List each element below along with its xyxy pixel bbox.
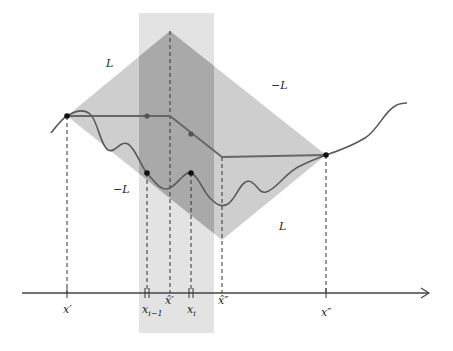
slope-label-lower-left: −L: [113, 183, 130, 196]
left-vertex-point: [64, 113, 70, 119]
diagram-canvas: L −L −L L x′ xi−1 x̂′ xi x̂″ x″: [0, 0, 453, 351]
axis-label-x-prime: x′: [63, 303, 72, 316]
axis-label-x-double-prime: x″: [321, 306, 332, 319]
curve-point-x-i: [188, 170, 194, 176]
slope-label-lower-right: L: [278, 220, 286, 233]
upper-point-x-i-minus-1: [144, 113, 149, 118]
upper-point-x-i: [188, 131, 193, 136]
axis-label-x-hat-double-prime: x̂″: [218, 294, 229, 307]
slope-label-upper-left: L: [105, 57, 113, 70]
axis-label-x-hat-prime: x̂′: [165, 294, 174, 307]
right-vertex-point: [323, 152, 329, 158]
slope-label-upper-right: −L: [271, 79, 288, 92]
curve-point-x-i-minus-1: [144, 170, 150, 176]
